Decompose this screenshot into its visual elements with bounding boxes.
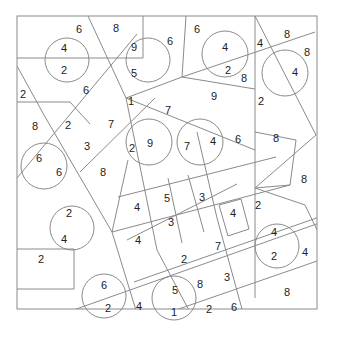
region-number: 4 xyxy=(230,207,236,219)
region-number: 6 xyxy=(167,35,173,47)
region-number: 8 xyxy=(284,286,290,298)
region-number: 2 xyxy=(66,207,72,219)
region-number: 4 xyxy=(302,246,308,258)
region-number: 6 xyxy=(101,279,107,291)
region-number: 2 xyxy=(61,64,67,76)
region-edge xyxy=(228,229,249,236)
region-number: 6 xyxy=(36,152,42,164)
region-edge xyxy=(241,199,249,229)
region-number: 3 xyxy=(224,271,230,283)
region-number: 2 xyxy=(181,253,187,265)
region-edge xyxy=(121,260,320,329)
region-edge xyxy=(290,140,296,185)
region-number: 8 xyxy=(113,22,119,34)
region-number: 7 xyxy=(184,140,190,152)
region-number: 4 xyxy=(210,135,216,147)
region-number: 4 xyxy=(222,41,228,53)
region-number: 8 xyxy=(301,173,307,185)
region-edge xyxy=(168,178,182,243)
region-edge xyxy=(126,77,182,98)
outer-border xyxy=(17,16,317,309)
region-number: 7 xyxy=(108,118,114,130)
region-number: 8 xyxy=(32,120,38,132)
region-numbers: 6842956642848842619278273297468668845334… xyxy=(20,22,310,318)
region-edge xyxy=(188,175,204,232)
region-number: 5 xyxy=(172,284,178,296)
region-number: 8 xyxy=(304,46,310,58)
region-number: 4 xyxy=(61,233,67,245)
region-number: 4 xyxy=(135,234,141,246)
region-number: 9 xyxy=(211,90,217,102)
region-number: 2 xyxy=(20,88,26,100)
region-number: 4 xyxy=(257,37,263,49)
region-number: 5 xyxy=(164,192,170,204)
region-edge xyxy=(255,188,305,205)
region-number: 1 xyxy=(128,95,134,107)
region-number: 2 xyxy=(206,303,212,315)
region-number: 6 xyxy=(56,166,62,178)
region-number: 6 xyxy=(231,301,237,313)
region-number: 2 xyxy=(255,199,261,211)
region-number: 6 xyxy=(76,23,82,35)
circle-shape xyxy=(262,50,308,96)
region-number: 9 xyxy=(131,41,137,53)
region-number: 8 xyxy=(197,278,203,290)
region-edge xyxy=(305,205,320,236)
region-number: 9 xyxy=(147,137,153,149)
region-number: 2 xyxy=(225,64,231,76)
region-number: 8 xyxy=(284,28,290,40)
puzzle-diagram: 6842956642848842619278273297468668845334… xyxy=(0,0,340,349)
region-number: 6 xyxy=(235,133,241,145)
region-edge xyxy=(219,199,241,205)
region-number: 3 xyxy=(84,140,90,152)
region-number: 2 xyxy=(271,250,277,262)
diagram-canvas: 6842956642848842619278273297468668845334… xyxy=(0,0,340,349)
region-edge xyxy=(80,98,155,172)
region-number: 6 xyxy=(83,84,89,96)
region-edge xyxy=(70,102,90,124)
region-number: 8 xyxy=(273,132,279,144)
region-number: 4 xyxy=(292,66,298,78)
region-number: 2 xyxy=(65,119,71,131)
region-number: 2 xyxy=(105,302,111,314)
region-number: 4 xyxy=(271,226,277,238)
region-number: 4 xyxy=(61,42,67,54)
region-number: 4 xyxy=(136,300,142,312)
region-number: 2 xyxy=(129,142,135,154)
region-number: 2 xyxy=(38,253,44,265)
region-number: 5 xyxy=(131,67,137,79)
region-number: 1 xyxy=(171,306,177,318)
region-number: 2 xyxy=(258,95,264,107)
region-number: 4 xyxy=(134,201,140,213)
region-number: 6 xyxy=(194,23,200,35)
region-number: 8 xyxy=(100,166,106,178)
region-number: 3 xyxy=(199,191,205,203)
region-number: 3 xyxy=(168,216,174,228)
region-number: 7 xyxy=(165,104,171,116)
region-number: 7 xyxy=(215,240,221,252)
region-number: 8 xyxy=(241,72,247,84)
border-rect xyxy=(17,16,317,309)
region-edge xyxy=(182,16,186,77)
